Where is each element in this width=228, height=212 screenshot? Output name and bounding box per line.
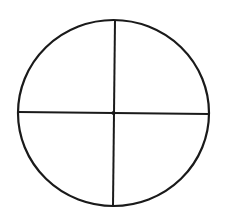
diagram-canvas	[0, 0, 228, 212]
quadrant-circle-diagram	[0, 0, 228, 212]
center-point	[112, 111, 116, 115]
